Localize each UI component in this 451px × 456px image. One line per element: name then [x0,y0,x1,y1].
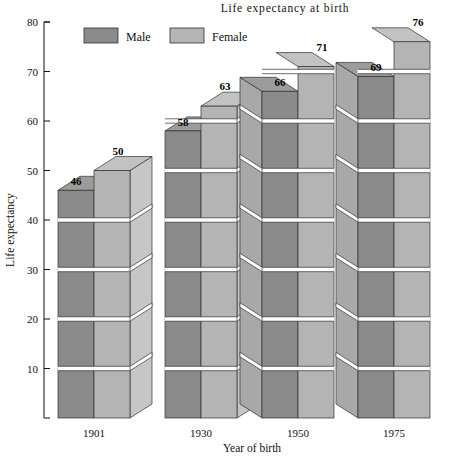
block-gap [165,119,238,123]
block-gap [58,267,131,271]
bar-male-1930 [165,171,201,221]
block-gap [358,168,431,172]
value-label-female: 71 [317,41,328,53]
bar-male-1975 [358,319,394,369]
bar-group-1950 [240,53,335,418]
bar-male-1975 [358,171,394,221]
bar-female-1975 [394,121,430,171]
bar-female-1930 [201,171,237,221]
block-gap [262,366,335,370]
y-tick-label: 80 [27,16,39,28]
bar-female-1950 [298,171,334,221]
y-tick-label: 50 [27,165,39,177]
bar-female-1975 [394,72,430,122]
y-tick-label: 30 [27,264,39,276]
block-gap [165,366,238,370]
bar-male-1975 [358,369,394,419]
value-label-female: 50 [113,145,125,157]
block-gap [262,317,335,321]
bar-female-1950 [298,220,334,270]
bar-female-1901 [94,369,130,419]
y-tick-label: 70 [27,66,39,78]
bar-female-1975 [394,270,430,320]
bar-female-1930 [201,369,237,419]
bar-female-1950 [298,369,334,419]
block-gap [262,69,335,73]
bar-male-1950 [262,270,298,320]
bar-female-1930 [201,220,237,270]
x-tick-label: 1950 [287,427,310,439]
x-tick-label: 1930 [190,427,213,439]
bar-male-1950 [262,121,298,171]
bar-male-1901 [58,270,94,320]
legend-item-male: Male [84,28,151,44]
bar-male-1975 [358,270,394,320]
block-gap [358,366,431,370]
chart-canvas: Life expectancy at birth 102030405060708… [0,0,451,456]
bar-female-1930 [201,121,237,171]
bar-female-1950 [298,270,334,320]
block-gap [262,218,335,222]
block-gap [58,317,131,321]
value-label-male: 46 [71,175,83,187]
legend-swatch [84,28,118,43]
block-gap [358,218,431,222]
chart-title: Life expectancy at birth [221,2,350,15]
value-label-male: 66 [275,76,287,88]
bar-male-1930 [165,220,201,270]
bar-male-1930 [165,319,201,369]
x-tick-label: 1901 [83,427,105,439]
bar-female-1901 [94,270,130,320]
bar-female-1950 [298,121,334,171]
bar-group-1975 [336,28,431,418]
bar-male-1950 [262,319,298,369]
bar-male-1930 [165,131,201,171]
y-axis-title: Life expectancy [4,193,17,267]
y-tick-label: 60 [27,115,39,127]
value-label-female: 63 [220,80,232,92]
block-gap [262,267,335,271]
bar-female-1975 [394,319,430,369]
bar-female-1930 [201,319,237,369]
bar-male-1975 [358,220,394,270]
value-label-male: 58 [178,116,190,128]
bar-male-1901 [58,319,94,369]
legend-label: Female [212,30,247,44]
bar-male-1950 [262,369,298,419]
bar-male-1901 [58,220,94,270]
bar-male-1950 [262,171,298,221]
block-gap [358,267,431,271]
bar-female-1901 [94,319,130,369]
block-gap [358,69,431,73]
block-gap [165,267,238,271]
bar-female-1975 [394,42,430,72]
legend-label: Male [126,30,151,44]
x-axis-title: Year of birth [223,442,281,454]
bar-female-1975 [394,220,430,270]
block-gap [358,119,431,123]
block-gap [58,366,131,370]
bar-group-1901 [58,157,153,419]
bar-female-1975 [394,171,430,221]
block-gap [165,218,238,222]
bar-male-1901 [58,190,94,220]
bar-male-1950 [262,91,298,121]
bar-female-1901 [94,220,130,270]
bar-male-1930 [165,270,201,320]
legend-swatch [170,28,204,43]
y-tick-label: 20 [27,313,39,325]
block-gap [165,317,238,321]
bar-male-1975 [358,121,394,171]
bar-female-1950 [298,319,334,369]
y-tick-label: 40 [27,214,39,226]
y-tick-label: 10 [27,363,39,375]
block-gap [262,168,335,172]
bar-male-1950 [262,220,298,270]
x-tick-label: 1975 [383,427,406,439]
life-expectancy-chart: Life expectancy at birth 102030405060708… [0,0,451,456]
value-label-male: 69 [371,61,383,73]
bar-male-1930 [165,369,201,419]
block-gap [58,218,131,222]
bar-female-1950 [298,72,334,122]
block-gap [262,119,335,123]
